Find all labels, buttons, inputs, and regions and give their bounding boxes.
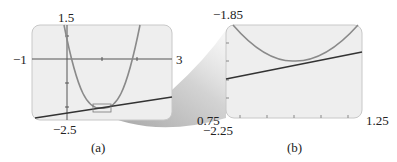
panel-a-screen bbox=[32, 25, 172, 120]
panel-b bbox=[226, 25, 362, 118]
panel-b-caption: (b) bbox=[287, 141, 302, 154]
panel-b-ymin-label: −2.25 bbox=[203, 124, 233, 137]
panel-a-caption: (a) bbox=[91, 141, 105, 154]
panel-b-ymax-label: −1.85 bbox=[213, 8, 243, 21]
panel-b-xmax-label: 1.25 bbox=[366, 114, 389, 127]
panel-a-ymax-label: 1.5 bbox=[58, 11, 74, 24]
panel-a bbox=[32, 25, 172, 120]
panel-a-ymin-label: −2.5 bbox=[53, 123, 77, 136]
panel-a-xmin-label: −1 bbox=[13, 53, 27, 66]
panel-a-xmax-label: 3 bbox=[176, 53, 183, 66]
